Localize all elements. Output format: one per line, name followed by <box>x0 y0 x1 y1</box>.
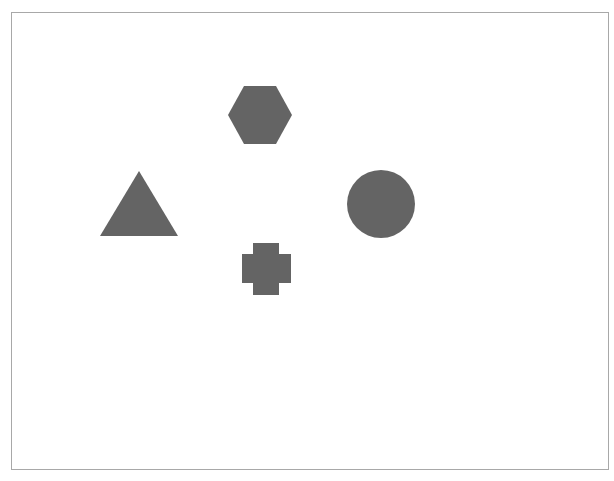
cross-shape[interactable] <box>242 243 291 295</box>
circle-shape[interactable] <box>347 170 415 238</box>
triangle-shape[interactable] <box>100 171 178 236</box>
stage <box>0 0 614 481</box>
hexagon-shape[interactable] <box>228 86 292 144</box>
shape-canvas <box>0 0 614 481</box>
